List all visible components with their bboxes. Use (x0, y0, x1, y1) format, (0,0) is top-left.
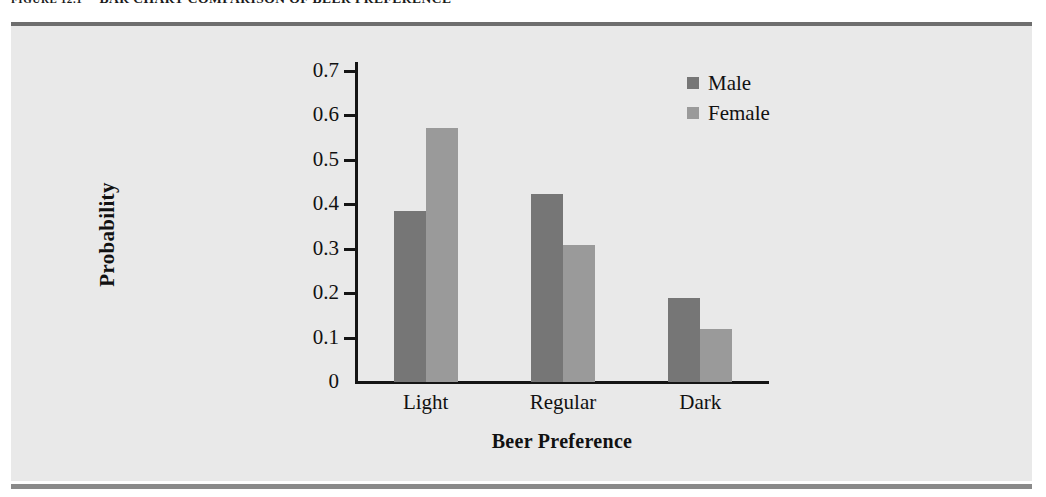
legend-swatch-icon (687, 77, 699, 89)
legend-item-male: Male (687, 68, 770, 98)
bar-light-male (394, 211, 426, 382)
legend-label: Male (708, 73, 751, 94)
bar-light-female (426, 128, 458, 382)
bar-chart: 00.10.20.30.40.50.60.7 Probability Light… (11, 26, 1032, 481)
figure-caption-text: BAR CHART COMPARISON OF BEER PREFERENCE (99, 0, 451, 6)
chart-legend: MaleFemale (687, 68, 770, 128)
x-axis-category-label: Light (346, 390, 506, 415)
x-axis-title: Beer Preference (355, 430, 769, 453)
bar-dark-female (700, 329, 732, 382)
bar-dark-male (668, 298, 700, 382)
legend-item-female: Female (687, 98, 770, 128)
x-axis-category-label: Regular (483, 390, 643, 415)
figure-caption: FIGURE 12.1BAR CHART COMPARISON OF BEER … (11, 0, 1032, 7)
legend-label: Female (708, 103, 770, 124)
legend-swatch-icon (687, 107, 699, 119)
figure-panel: 00.10.20.30.40.50.60.7 Probability Light… (11, 26, 1032, 481)
bar-regular-female (563, 245, 595, 382)
figure-caption-label: FIGURE 12.1 (11, 0, 82, 5)
x-axis-category-label: Dark (620, 390, 780, 415)
bottom-divider-rule (11, 484, 1032, 489)
bar-regular-male (531, 194, 563, 382)
bars-layer (11, 26, 1032, 382)
